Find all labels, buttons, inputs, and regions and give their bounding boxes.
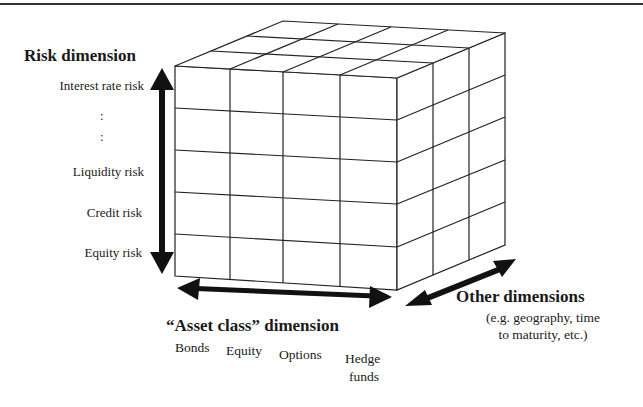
risk-item-equity: Equity risk	[2, 245, 142, 261]
risk-item-credit: Credit risk	[2, 205, 142, 221]
risk-item-liquidity: Liquidity risk	[4, 164, 144, 180]
risk-dimension-arrow	[150, 68, 174, 274]
asset-item-equity: Equity	[226, 343, 262, 359]
asset-item-hedge: Hedge	[345, 351, 380, 367]
other-dimensions-subtitle-1: (e.g. geography, time	[463, 309, 623, 326]
risk-item-ellipsis-2: :	[100, 132, 104, 141]
other-dimensions-title: Other dimensions	[456, 287, 585, 307]
other-dimensions-subtitle-2: to maturity, etc.)	[463, 326, 623, 343]
asset-class-title: “Asset class” dimension	[166, 316, 339, 336]
risk-dimension-title: Risk dimension	[24, 46, 136, 66]
asset-item-funds: funds	[349, 369, 379, 385]
cube-grid	[175, 21, 505, 290]
asset-item-options: Options	[279, 347, 322, 363]
risk-item-interest-rate: Interest rate risk	[4, 78, 144, 94]
asset-item-bonds: Bonds	[175, 340, 210, 356]
risk-item-ellipsis-1: :	[100, 111, 104, 120]
